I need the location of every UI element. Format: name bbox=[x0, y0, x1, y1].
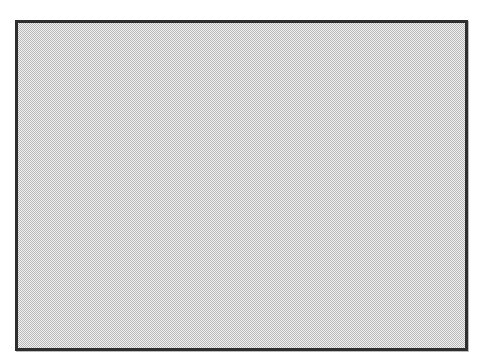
pattern-swatch: checkerboard-dither bbox=[15, 20, 468, 351]
pattern-fill bbox=[18, 23, 465, 348]
canvas: checkerboard-dither bbox=[0, 0, 478, 358]
